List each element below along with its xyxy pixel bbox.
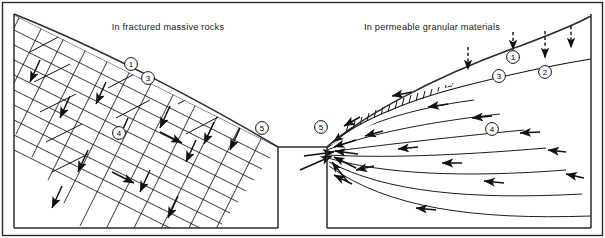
callout-1-left: 1 xyxy=(125,58,138,71)
callout-3-left: 3 xyxy=(142,72,155,85)
figure-canvas: 1 3 4 5 In fractured massive rocks xyxy=(0,0,605,238)
callout-5-right: 5 xyxy=(315,121,328,134)
callout-4-left-label: 4 xyxy=(117,129,122,138)
callout-3-left-label: 3 xyxy=(146,74,151,83)
callout-5-left: 5 xyxy=(256,122,269,135)
callout-2-right-label: 2 xyxy=(543,68,548,77)
callout-4-right-label: 4 xyxy=(490,125,495,134)
callout-1-right: 1 xyxy=(507,51,520,64)
callout-3-right: 3 xyxy=(493,70,506,83)
callout-4-left: 4 xyxy=(113,127,126,140)
callout-2-right: 2 xyxy=(539,66,552,79)
callout-5-left-label: 5 xyxy=(260,124,265,133)
callout-1-left-label: 1 xyxy=(129,60,134,69)
callout-4-right: 4 xyxy=(486,123,499,136)
right-panel-title: In permeable granular materials xyxy=(364,22,500,32)
callout-1-right-label: 1 xyxy=(511,53,516,62)
left-panel-title: In fractured massive rocks xyxy=(112,22,225,32)
callout-3-right-label: 3 xyxy=(497,72,502,81)
seepage-diagram-svg: 1 3 4 5 In fractured massive rocks xyxy=(0,0,605,238)
callout-5-right-label: 5 xyxy=(319,123,324,132)
